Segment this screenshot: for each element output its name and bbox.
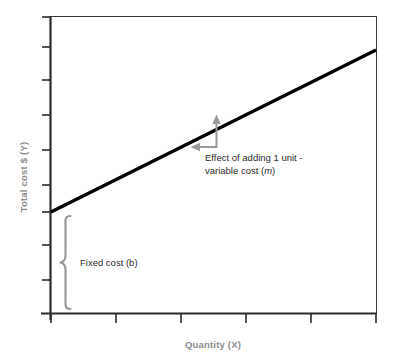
chart-figure: Effect of adding 1 unit - variable cost …	[0, 0, 395, 362]
variable-cost-label-slope-symbol: m	[264, 165, 272, 176]
variable-cost-label-line2: variable cost (m)	[205, 165, 275, 176]
y-axis-title: Total cost $ (Y)	[18, 142, 29, 213]
x-axis-title: Quantity (X)	[185, 339, 241, 350]
variable-cost-label-line1: Effect of adding 1 unit -	[205, 152, 303, 163]
variable-cost-label-line2-post: )	[272, 165, 275, 176]
cost-volume-line-chart: Effect of adding 1 unit - variable cost …	[0, 0, 395, 362]
fixed-cost-label: Fixed cost (b)	[80, 257, 138, 268]
figure-background	[0, 0, 395, 362]
variable-cost-label-line2-pre: variable cost (	[205, 165, 265, 176]
